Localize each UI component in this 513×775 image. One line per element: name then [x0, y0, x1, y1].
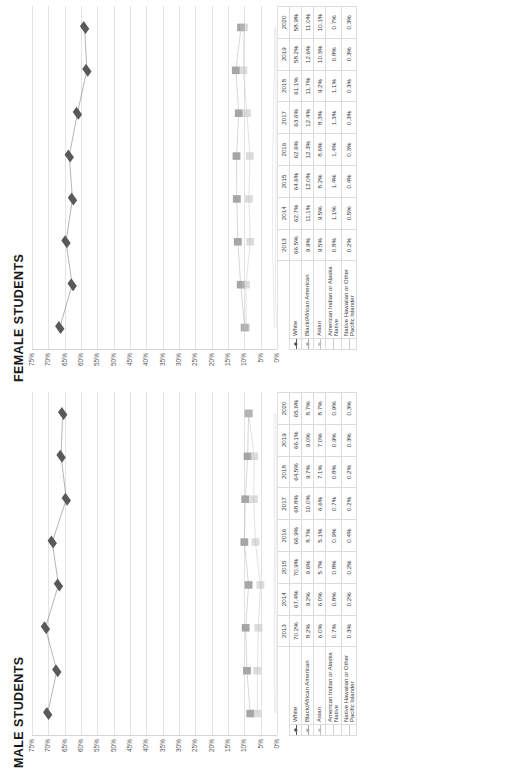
data-point-marker	[253, 710, 261, 718]
data-cell: 9.9%	[302, 229, 314, 261]
data-point-marker	[48, 536, 57, 549]
data-cell: 62.7%	[290, 197, 302, 229]
year-column-header: 2017	[278, 488, 290, 520]
data-cell: 9.0%	[302, 424, 314, 456]
data-point-marker	[80, 21, 89, 34]
year-column-header: 2018	[278, 70, 290, 102]
data-cell: 68.8%	[290, 488, 302, 520]
data-point-marker	[43, 707, 52, 720]
data-cell: 0.2%	[341, 583, 357, 615]
y-axis-tick-label: 65%	[61, 739, 68, 752]
data-cell: 58.9%	[290, 7, 302, 39]
y-axis-tick-label: 70%	[45, 739, 52, 752]
year-column-header: 2014	[278, 583, 290, 615]
series-name-cell: Native Hawaiian or Other Pacific Islande…	[341, 647, 357, 725]
data-cell: 6.0%	[314, 583, 326, 615]
data-cell: 10.0%	[302, 488, 314, 520]
data-cell: 0.8%	[326, 552, 342, 584]
data-point-marker	[254, 624, 262, 632]
data-cell: 66.1%	[290, 424, 302, 456]
data-point-marker	[41, 621, 50, 634]
year-column-header: 2013	[278, 615, 290, 647]
data-cell: 0.9%	[326, 424, 342, 456]
data-point-marker	[245, 410, 253, 418]
year-column-header: 2019	[278, 38, 290, 70]
year-column-header: 2015	[278, 166, 290, 198]
legend-key-swatch	[302, 339, 314, 350]
data-cell: 8.7%	[314, 393, 326, 425]
data-point-marker	[65, 150, 74, 163]
y-axis-tick-label: 70%	[45, 353, 52, 366]
series-name-cell: Asian	[314, 261, 326, 339]
data-point-marker	[55, 321, 64, 334]
data-cell: 61.1%	[290, 70, 302, 102]
data-point-marker	[61, 235, 70, 248]
plot-area: 75%70%65%60%55%50%45%40%35%30%25%20%15%1…	[32, 392, 277, 736]
legend-key-swatch	[290, 339, 302, 350]
series-name-header	[278, 647, 290, 725]
y-axis-tick-label: 45%	[127, 353, 134, 366]
table-row: Black/African American9.9%11.1%12.0%12.3…	[302, 7, 314, 350]
data-cell: 1.3%	[326, 102, 342, 134]
data-cell: 58.2%	[290, 38, 302, 70]
data-point-marker	[242, 624, 250, 632]
y-axis-tick-label: 35%	[159, 353, 166, 366]
table-header-row: 20132014201520162017201820192020	[278, 7, 290, 350]
data-point-marker	[245, 581, 253, 589]
data-point-marker	[239, 67, 247, 75]
data-cell: 8.7%	[302, 520, 314, 552]
y-axis-tick-label: 0%	[274, 739, 281, 748]
plot-area: 75%70%65%60%55%50%45%40%35%30%25%20%15%1…	[32, 6, 277, 350]
data-point-marker	[82, 64, 91, 77]
year-column-header: 2013	[278, 229, 290, 261]
data-point-marker	[68, 278, 77, 291]
data-cell: 7.0%	[314, 424, 326, 456]
data-point-marker	[233, 195, 241, 203]
data-cell: 12.4%	[302, 102, 314, 134]
table-row: Black/African American8.2%9.2%9.6%8.7%10…	[302, 393, 314, 736]
data-cell: 9.2%	[302, 583, 314, 615]
data-cell: 9.6%	[302, 552, 314, 584]
gridline	[277, 392, 278, 735]
data-cell: 0.9%	[326, 393, 342, 425]
data-point-marker	[240, 24, 248, 32]
data-cell: 0.2%	[341, 488, 357, 520]
data-point-marker	[246, 152, 254, 160]
series-name-cell: Asian	[314, 647, 326, 725]
legend-key-swatch	[341, 725, 357, 736]
y-axis-tick-label: 55%	[94, 739, 101, 752]
chart-title: FEMALE STUDENTS	[10, 6, 32, 386]
data-point-marker	[73, 107, 82, 120]
data-point-marker	[240, 538, 248, 546]
legend-key-header	[278, 725, 290, 736]
table-row: American Indian or Alaska Native0.8%1.1%…	[326, 7, 342, 350]
y-axis-tick-label: 30%	[176, 353, 183, 366]
year-column-header: 2020	[278, 7, 290, 39]
data-cell: 1.1%	[326, 70, 342, 102]
data-point-marker	[234, 238, 242, 246]
table-row: Asian9.5%9.5%8.2%8.6%8.3%9.2%10.3%10.1%	[314, 7, 326, 350]
series-name-cell: American Indian or Alaska Native	[326, 261, 342, 339]
chart-title: MALE STUDENTS	[10, 392, 32, 772]
series-line	[276, 413, 277, 713]
data-cell: 12.3%	[302, 134, 314, 166]
legend-key-swatch	[326, 725, 342, 736]
series-name-cell: Black/African American	[302, 647, 314, 725]
data-cell: 0.4%	[341, 166, 357, 198]
data-point-marker	[241, 495, 249, 503]
data-cell: 64.5%	[290, 456, 302, 488]
data-cell: 8.2%	[314, 166, 326, 198]
data-cell: 66.5%	[290, 229, 302, 261]
data-cell: 0.7%	[326, 488, 342, 520]
data-point-marker	[62, 493, 71, 506]
y-axis-tick-label: 35%	[159, 739, 166, 752]
data-cell: 0.3%	[341, 424, 357, 456]
y-axis-tick-label: 10%	[241, 739, 248, 752]
data-point-marker	[256, 581, 264, 589]
year-column-header: 2014	[278, 197, 290, 229]
y-axis-tick-label: 20%	[208, 739, 215, 752]
data-cell: 67.4%	[290, 583, 302, 615]
data-cell: 0.3%	[341, 615, 357, 647]
legend-key-swatch	[302, 725, 314, 736]
data-cell: 0.9%	[326, 520, 342, 552]
